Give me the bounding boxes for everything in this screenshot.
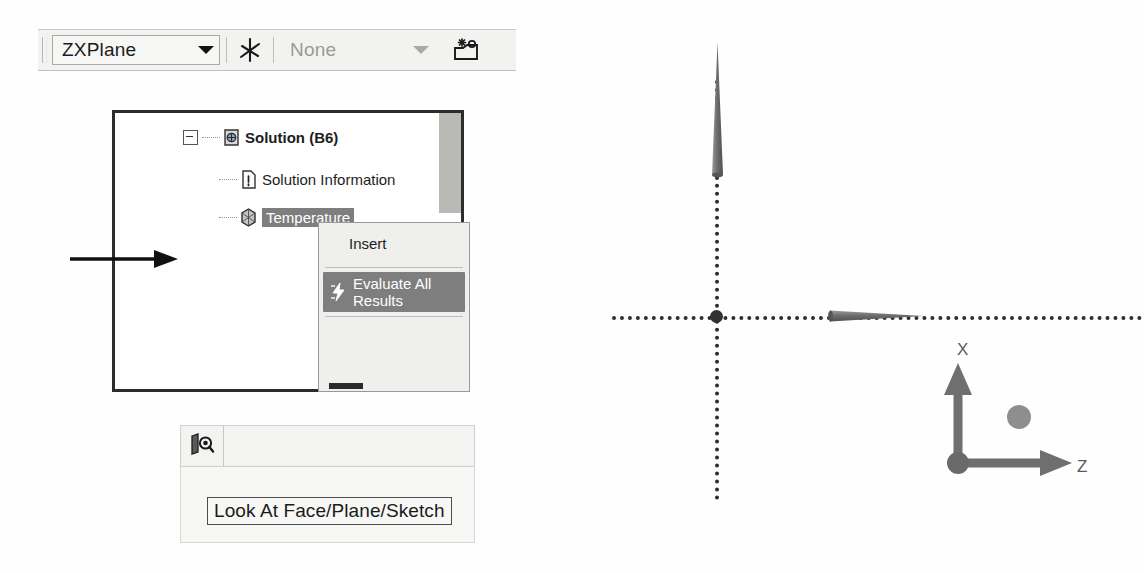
toolbar-separator-2 — [273, 37, 274, 63]
tree-item-label: Solution (B6) — [245, 129, 338, 146]
origin-point — [710, 310, 723, 323]
tree-vertical-scrollbar[interactable] — [439, 113, 461, 213]
context-menu-item-evaluate-all-results[interactable]: Evaluate All Results — [323, 272, 465, 312]
triad-z-axis — [958, 450, 1072, 476]
chevron-down-icon[interactable] — [198, 46, 214, 54]
context-menu: Insert Evaluate All Results — [318, 222, 470, 392]
context-menu-separator — [325, 316, 463, 317]
toolbar-grip[interactable] — [42, 37, 47, 63]
axis-label-z: Z — [1077, 457, 1087, 477]
annotation-arrow-icon — [70, 245, 180, 277]
context-menu-item-label: Insert — [349, 235, 387, 252]
context-menu-truncated-item — [329, 383, 363, 389]
plane-select-value: ZXPlane — [62, 39, 136, 61]
plane-axes-icon[interactable] — [233, 34, 267, 66]
context-menu-item-label: Evaluate All Results — [353, 275, 465, 309]
graphics-viewport[interactable]: X Z — [560, 0, 1144, 573]
context-menu-separator — [325, 267, 463, 268]
tree-connector — [219, 179, 237, 181]
evaluate-results-icon — [329, 282, 349, 302]
tree-item-solution[interactable]: Solution (B6) — [183, 127, 338, 148]
tree-connector — [219, 217, 237, 219]
vertical-axis-cone-icon — [706, 40, 730, 180]
solution-information-icon — [239, 169, 258, 190]
tree-item-solution-information[interactable]: Solution Information — [219, 169, 395, 190]
plane-select[interactable]: ZXPlane — [52, 35, 220, 65]
chevron-down-icon[interactable] — [413, 46, 429, 54]
toolbar-separator-1 — [226, 37, 227, 63]
tooltip-look-at-face-plane-sketch: Look At Face/Plane/Sketch — [207, 497, 452, 525]
context-menu-item-insert[interactable]: Insert — [319, 223, 469, 263]
triad-origin-sphere — [947, 452, 969, 474]
sketch-select[interactable]: None — [280, 35, 435, 65]
expander-collapse-icon[interactable] — [183, 130, 198, 145]
new-sketch-icon[interactable] — [449, 34, 483, 66]
tree-item-label: Solution Information — [262, 171, 395, 188]
tree-connector — [202, 137, 220, 139]
axis-triad-widget — [920, 355, 1100, 485]
horizontal-axis-cone-icon — [828, 305, 928, 327]
solution-icon — [222, 127, 241, 148]
look-at-face-plane-sketch-button[interactable] — [181, 426, 224, 466]
plane-toolbar: ZXPlane None — [38, 29, 516, 71]
temperature-icon — [239, 207, 258, 228]
screenshot-root: ZXPlane None — [0, 0, 1144, 573]
triad-x-axis — [944, 363, 972, 463]
sketch-select-value: None — [290, 39, 336, 61]
view-toolbar — [180, 425, 475, 467]
axis-label-x: X — [957, 340, 968, 360]
y-axis-sphere — [1007, 405, 1031, 429]
look-at-face-plane-sketch-icon — [189, 432, 215, 460]
